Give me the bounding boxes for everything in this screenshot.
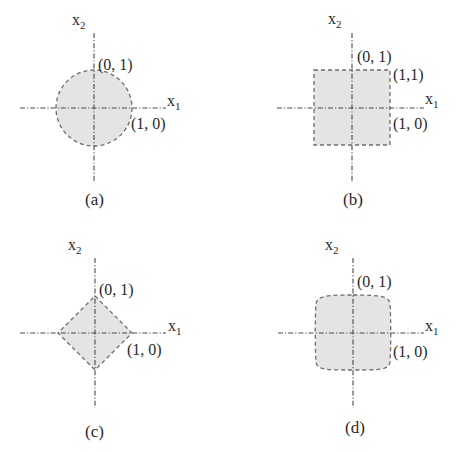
point-label-1-0: (1, 0) <box>393 343 428 361</box>
point-label-0-1: (0, 1) <box>357 48 392 66</box>
panel-a: x2 x1 (0, 1) (1, 0) (a) <box>20 11 181 209</box>
x2-axis-label: x2 <box>68 236 82 256</box>
point-label-0-1: (0, 1) <box>99 281 134 299</box>
panel-caption: (b) <box>343 190 363 209</box>
point-label-1-0: (1, 0) <box>393 115 428 133</box>
panel-c: x2 x1 (0, 1) (1, 0) (c) <box>20 236 182 441</box>
x1-axis-label: x1 <box>167 92 181 112</box>
x1-axis-label: x1 <box>168 317 182 337</box>
x2-axis-label: x2 <box>328 10 342 30</box>
point-label-0-1: (0, 1) <box>357 273 392 291</box>
panel-b: x2 x1 (0, 1) (1,1) (1, 0) (b) <box>277 10 439 209</box>
point-label-1-0: (1, 0) <box>131 115 166 133</box>
point-label-1-1: (1,1) <box>393 66 424 84</box>
panel-d: x2 x1 (0, 1) (1, 0) (d) <box>278 236 439 437</box>
panel-caption: (c) <box>85 422 104 441</box>
norm-unit-balls-figure: x2 x1 (0, 1) (1, 0) (a) x2 x1 (0, 1) (1,… <box>0 0 456 452</box>
x1-axis-label: x1 <box>425 317 439 337</box>
point-label-0-1: (0, 1) <box>98 56 133 74</box>
x2-axis-label: x2 <box>325 236 339 256</box>
point-label-1-0: (1, 0) <box>127 341 162 359</box>
x1-axis-label: x1 <box>425 90 439 110</box>
x2-axis-label: x2 <box>72 11 86 31</box>
panel-caption: (d) <box>345 418 365 437</box>
panel-caption: (a) <box>85 190 104 209</box>
